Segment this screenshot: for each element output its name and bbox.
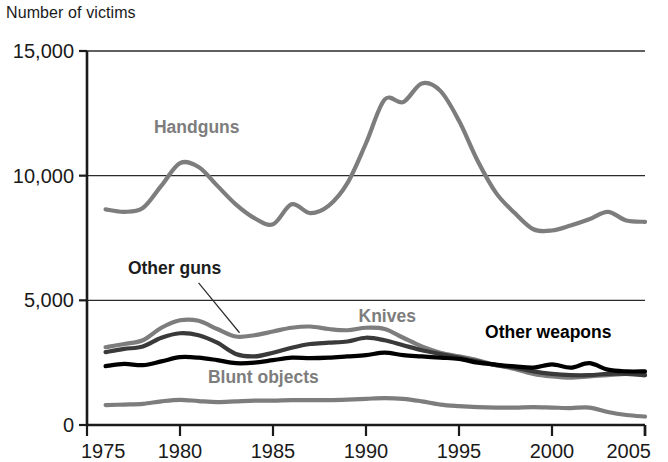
series-line-handguns xyxy=(106,83,645,231)
series-label-knives: Knives xyxy=(359,306,417,326)
x-tick-label-1980: 1980 xyxy=(158,440,203,462)
series-line-other-weapons xyxy=(106,353,645,372)
x-tick-label-2000: 2000 xyxy=(530,440,575,462)
series-label-blunt-objects: Blunt objects xyxy=(208,367,319,387)
x-tick-label-2005: 2005 xyxy=(607,440,652,462)
series-label-group: HandgunsKnivesOther gunsOther weaponsBlu… xyxy=(128,117,612,386)
x-tick-label-1975: 1975 xyxy=(81,440,126,462)
y-tick-label-10000: 10,000 xyxy=(13,165,74,187)
y-tick-label-15000: 15,000 xyxy=(13,40,74,62)
x-tick-group: 1975198019851990199520002005 xyxy=(81,425,651,462)
line-chart-plot: 05,00010,00015,000 197519801985199019952… xyxy=(0,0,668,462)
chart-container: Number of victims 05,00010,00015,000 197… xyxy=(0,0,668,462)
series-label-other-weapons: Other weapons xyxy=(485,322,612,342)
y-tick-label-5000: 5,000 xyxy=(24,289,74,311)
series-line-blunt-objects xyxy=(106,398,645,416)
series-label-handguns: Handguns xyxy=(154,117,240,137)
x-tick-label-1995: 1995 xyxy=(437,440,482,462)
y-tick-label-0: 0 xyxy=(63,414,74,436)
y-tick-group: 05,00010,00015,000 xyxy=(13,40,87,436)
x-tick-label-1985: 1985 xyxy=(251,440,296,462)
x-tick-label-1990: 1990 xyxy=(344,440,389,462)
series-label-other-guns: Other guns xyxy=(128,258,222,278)
